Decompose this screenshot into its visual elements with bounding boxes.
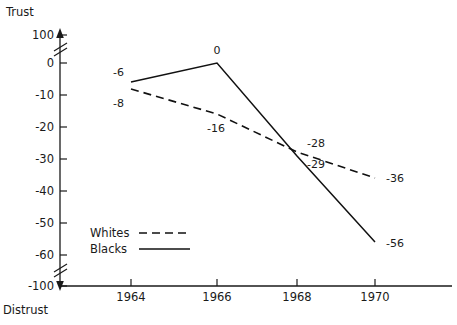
y-tick-label-minus20: -20 xyxy=(35,120,54,134)
point-label-whites-1968: -28 xyxy=(307,137,325,150)
series-line-whites xyxy=(131,89,375,178)
y-axis-title-bottom: Distrust xyxy=(3,303,49,317)
point-label-blacks-1966: 0 xyxy=(214,44,221,57)
point-label-blacks-1964: -6 xyxy=(113,66,124,79)
y-tick-label-minus60: -60 xyxy=(35,248,54,262)
y-tick-label-minus10: -10 xyxy=(35,88,54,102)
legend-label-whites: Whites xyxy=(90,226,129,240)
trust-distrust-line-chart: Trust Distrust 100 0 -10 -20 -30 xyxy=(0,0,457,325)
legend: Whites Blacks xyxy=(90,226,190,256)
y-tick-label-minus40: -40 xyxy=(35,184,54,198)
y-tick-label-minus50: -50 xyxy=(35,216,54,230)
point-label-whites-1970: -36 xyxy=(386,172,404,185)
y-tick-label-0: 0 xyxy=(47,56,54,70)
y-axis-title-top: Trust xyxy=(5,5,34,19)
y-tick-label-100: 100 xyxy=(32,28,54,42)
point-label-blacks-1970: -56 xyxy=(386,237,404,250)
y-tick-label-minus100: -100 xyxy=(28,279,54,293)
y-axis-arrow-top-icon xyxy=(56,28,64,38)
series-line-blacks xyxy=(131,63,375,242)
x-tick-label-1970: 1970 xyxy=(360,290,389,304)
x-tick-label-1964: 1964 xyxy=(116,290,145,304)
legend-label-blacks: Blacks xyxy=(90,242,127,256)
y-tick-label-minus30: -30 xyxy=(35,152,54,166)
x-tick-label-1968: 1968 xyxy=(282,290,311,304)
chart-canvas: Trust Distrust 100 0 -10 -20 -30 xyxy=(0,0,457,325)
point-label-whites-1964: -8 xyxy=(113,97,124,110)
point-label-whites-1966: -16 xyxy=(207,122,225,135)
point-label-blacks-1968: -29 xyxy=(307,158,325,171)
x-tick-label-1966: 1966 xyxy=(202,290,231,304)
